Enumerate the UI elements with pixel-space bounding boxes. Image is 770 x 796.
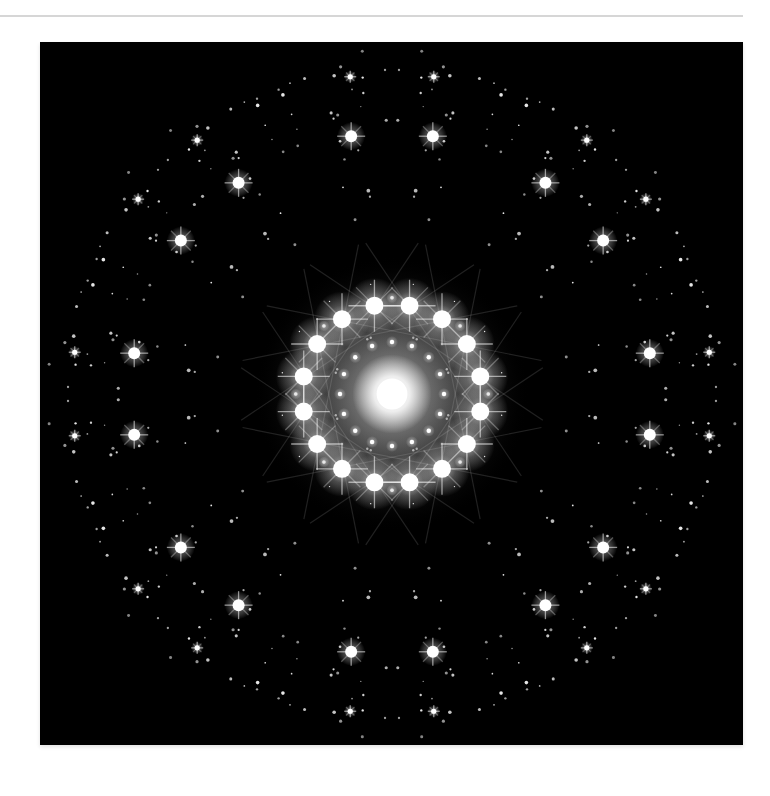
top-divider [0,15,743,17]
diffraction-pattern-svg [40,42,743,745]
page: Octagonal quasicrystal electron diffract… [0,0,770,796]
diffraction-pattern-image: Octagonal quasicrystal electron diffract… [40,42,743,745]
central-beam-spot [352,354,431,433]
